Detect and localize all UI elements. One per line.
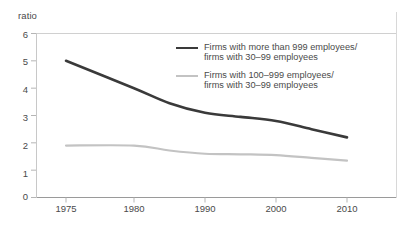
plot-area [0, 0, 406, 233]
legend-label-large-firms: Firms with more than 999 employees/ firm… [204, 42, 357, 63]
legend-swatch-icon-dark [176, 47, 198, 49]
legend-entry-mid-firms: Firms with 100–999 employees/ firms with… [176, 70, 394, 91]
x-tick-marks [66, 198, 347, 203]
chart-legend: Firms with more than 999 employees/ firm… [176, 42, 394, 98]
legend-entry-large-firms: Firms with more than 999 employees/ firm… [176, 42, 394, 63]
line-chart: ratio 6 5 4 3 2 1 0 1975 1980 1990 2000 … [0, 0, 406, 233]
y-tick-marks [31, 34, 36, 198]
legend-swatch-icon-light [176, 75, 198, 77]
legend-label-mid-firms: Firms with 100–999 employees/ firms with… [204, 70, 334, 91]
series-line-1 [66, 145, 347, 160]
plot-right-border [396, 12, 397, 198]
